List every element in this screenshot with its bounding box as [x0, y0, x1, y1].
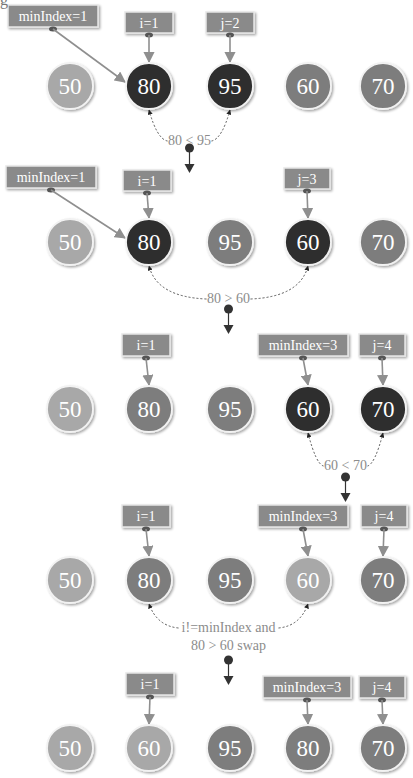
pointer-label: i=1 [125, 12, 173, 62]
node-value: 80 [138, 568, 161, 593]
compare-arrow-icon [149, 604, 179, 628]
pointer-label: j=4 [359, 334, 405, 385]
step-down-arrow-icon [224, 305, 234, 335]
pointer-label-text: i=1 [141, 677, 160, 692]
array-element-node: 80 [126, 219, 172, 265]
node-value: 95 [219, 230, 242, 255]
node-value: 70 [372, 568, 395, 593]
array-element-node: 95 [207, 386, 253, 432]
array-element-node: 70 [360, 63, 406, 109]
array-element-node: 80 [285, 725, 331, 771]
comparison-text: 80 > 60 [207, 291, 250, 306]
node-value: 50 [59, 74, 82, 99]
array-element-node: 50 [47, 63, 93, 109]
array-element-node: 60 [285, 219, 331, 265]
node-value: 70 [372, 74, 395, 99]
compare-arrow-icon [149, 110, 168, 141]
node-value: 50 [59, 736, 82, 761]
pointer-label: j=2 [206, 12, 254, 62]
node-value: 50 [59, 397, 82, 422]
node-value: 95 [219, 397, 242, 422]
pointer-label-text: i=1 [138, 174, 157, 189]
pointer-label-text: i=1 [140, 16, 159, 31]
array-element-node: 50 [47, 386, 93, 432]
node-value: 60 [297, 74, 320, 99]
pointer-label: minIndex=3 [263, 676, 351, 724]
compare-arrow-icon [368, 433, 384, 466]
array-element-node: 50 [47, 219, 93, 265]
pointer-label: j=4 [359, 676, 405, 724]
comparison-annotation: 60 < 70 [308, 433, 383, 502]
pointer-label-text: j=4 [372, 338, 392, 353]
comparison-annotation: 80 < 95 [149, 110, 230, 173]
step-row-5: i=1minIndex=3j=45060958070 [47, 673, 406, 771]
pointer-label: i=1 [123, 170, 171, 218]
array-element-node: 60 [285, 386, 331, 432]
pointer-arrow-icon [382, 700, 383, 724]
array-element-node: 60 [285, 557, 331, 603]
array-element-node: 50 [47, 557, 93, 603]
node-value: 80 [138, 74, 161, 99]
compare-arrow-icon [212, 110, 231, 141]
pointer-arrow-icon [146, 529, 149, 556]
array-element-node: 70 [360, 386, 406, 432]
corner-glyph: g [0, 0, 8, 9]
pointer-label-text: minIndex=3 [273, 680, 342, 695]
comparison-annotation: 80 > 60 [149, 266, 308, 334]
step-row-2: minIndex=1i=1j=3508095607080 > 60 [6, 166, 406, 334]
pointer-arrow-icon [382, 358, 383, 385]
pointer-label: minIndex=3 [258, 505, 348, 556]
pointer-label: minIndex=3 [258, 334, 348, 385]
pointer-label: i=1 [122, 505, 170, 556]
node-value: 95 [219, 568, 242, 593]
pointer-label-text: j=4 [372, 680, 392, 695]
node-value: 80 [138, 397, 161, 422]
pointer-arrow-icon [146, 358, 149, 385]
compare-arrow-icon [279, 604, 309, 628]
array-element-node: 80 [126, 557, 172, 603]
pointer-label-text: j=2 [220, 16, 240, 31]
pointer-label-text: i=1 [137, 509, 156, 524]
array-element-node: 95 [207, 557, 253, 603]
pointer-label-text: minIndex=1 [19, 9, 88, 24]
array-element-node: 95 [207, 63, 253, 109]
comparison-text: i!=minIndex and [182, 620, 276, 635]
pointer-label: j=3 [284, 168, 330, 218]
pointer-label: j=4 [361, 505, 407, 556]
array-element-node: 70 [360, 219, 406, 265]
pointer-arrow-icon [307, 700, 308, 724]
node-value: 50 [59, 568, 82, 593]
pointer-arrow-icon [303, 358, 308, 385]
step-row-3: i=1minIndex=3j=4508095607060 < 70 [47, 334, 406, 502]
compare-arrow-icon [251, 266, 309, 299]
node-value: 70 [372, 736, 395, 761]
pointer-arrow-icon [303, 529, 308, 556]
array-element-node: 70 [360, 725, 406, 771]
node-value: 95 [219, 736, 242, 761]
node-value: 60 [138, 736, 161, 761]
array-element-node: 70 [360, 557, 406, 603]
step-down-arrow-icon [185, 144, 195, 174]
step-row-1: minIndex=1i=1j=2508095607080 < 95 [8, 5, 406, 173]
node-value: 60 [297, 568, 320, 593]
pointer-label-text: i=1 [137, 338, 156, 353]
pointer-arrow-icon [383, 529, 384, 556]
step-down-arrow-icon [224, 656, 234, 686]
pointer-label-text: minIndex=3 [269, 509, 338, 524]
pointer-label: i=1 [122, 334, 170, 385]
compare-arrow-icon [308, 433, 324, 466]
array-element-node: 95 [207, 725, 253, 771]
node-value: 95 [219, 74, 242, 99]
node-value: 80 [138, 230, 161, 255]
pointer-arrow-icon [307, 191, 308, 218]
step-row-4: i=1minIndex=3j=45080956070i!=minIndex an… [47, 505, 407, 685]
pointer-label-text: minIndex=3 [269, 338, 338, 353]
node-value: 70 [372, 397, 395, 422]
comparison-text: 80 > 60 swap [191, 638, 266, 653]
pointer-arrow-icon [147, 193, 149, 218]
selection-sort-diagram: g minIndex=1i=1j=2508095607080 < 95minIn… [0, 0, 413, 778]
pointer-label-text: j=3 [297, 172, 317, 187]
step-down-arrow-icon [341, 473, 351, 503]
array-element-node: 60 [126, 725, 172, 771]
node-value: 60 [297, 397, 320, 422]
